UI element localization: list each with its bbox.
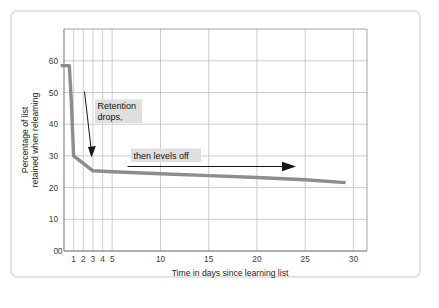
x-axis-title: Time in days since learning list <box>172 268 289 278</box>
y-tick-label-10: 10 <box>49 214 59 224</box>
x-axis-title-group: Time in days since learning list <box>172 268 289 278</box>
plot-area-background <box>64 29 367 251</box>
x-tick-label-10: 10 <box>156 254 166 264</box>
figure-root: 0 10 20 30 40 50 60 0 1 2 3 4 5 10 15 20… <box>0 0 439 308</box>
y-tick-label-50: 50 <box>49 88 59 98</box>
annotation-retention-drops-line-1: Retention <box>98 101 137 111</box>
x-tick-label-0: 0 <box>58 246 63 256</box>
y-tick-label-40: 40 <box>49 119 59 129</box>
y-tick-label-20: 20 <box>49 183 59 193</box>
annotation-then-levels-off-label: then levels off <box>134 151 190 161</box>
y-axis-title-group: Percentage of list retained when relearn… <box>20 92 40 187</box>
x-tick-label-1: 1 <box>71 254 76 264</box>
x-tick-label-30: 30 <box>349 254 359 264</box>
x-tick-label-20: 20 <box>252 254 262 264</box>
x-tick-label-4: 4 <box>100 254 105 264</box>
x-tick-label-3: 3 <box>91 254 96 264</box>
y-axis-title-line-1: Percentage of list <box>20 106 30 173</box>
y-tick-label-30: 30 <box>49 151 59 161</box>
x-tick-label-25: 25 <box>301 254 311 264</box>
x-tick-label-15: 15 <box>204 254 214 264</box>
y-axis-title-line-2: retained when relearning <box>30 92 40 187</box>
x-tick-label-2: 2 <box>81 254 86 264</box>
forgetting-curve-chart: 0 10 20 30 40 50 60 0 1 2 3 4 5 10 15 20… <box>0 0 439 308</box>
y-tick-label-60: 60 <box>49 56 59 66</box>
annotation-retention-drops-line-2: drops, <box>98 112 123 122</box>
x-tick-label-5: 5 <box>110 254 115 264</box>
y-axis-tick-labels: 0 10 20 30 40 50 60 <box>49 56 59 256</box>
